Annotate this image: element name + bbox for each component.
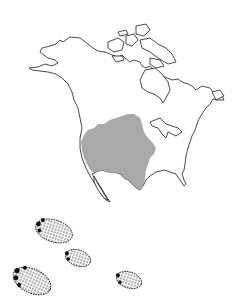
track-2 bbox=[62, 246, 93, 270]
track-3 bbox=[8, 261, 55, 300]
arctic-island bbox=[118, 30, 128, 36]
track-4 bbox=[113, 268, 144, 292]
animal-tracks bbox=[8, 215, 144, 301]
track-1 bbox=[32, 215, 75, 248]
range-map-figure bbox=[0, 0, 247, 307]
arctic-island bbox=[126, 34, 138, 46]
arctic-island bbox=[136, 24, 150, 36]
arctic-island bbox=[108, 38, 124, 52]
